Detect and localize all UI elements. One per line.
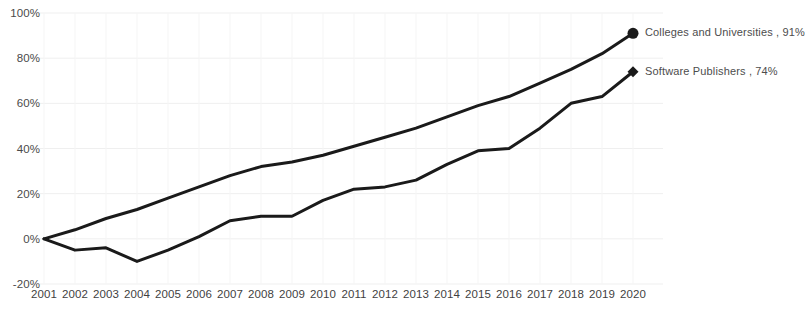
series-end-labels: Colleges and Universities , 91%Software … [0,0,805,309]
line-chart: 100%80%60%40%20%0%-20% 20012002200320042… [0,0,805,309]
series-end-label-1: Colleges and Universities , 91% [645,26,805,38]
series-end-label-2: Software Publishers , 74% [645,65,778,77]
